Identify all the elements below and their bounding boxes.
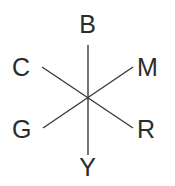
axis-label-upper-left-cyan: C bbox=[12, 55, 30, 80]
axis-label-top-blue: B bbox=[0, 12, 175, 37]
axis-label-lower-left-green: G bbox=[12, 117, 31, 142]
axis-label-upper-right-magenta: M bbox=[137, 55, 158, 80]
axis-label-bottom-yellow: Y bbox=[0, 155, 175, 180]
axis-label-lower-right-red: R bbox=[137, 117, 155, 142]
color-axes-figure: B M R Y G C bbox=[0, 0, 175, 186]
